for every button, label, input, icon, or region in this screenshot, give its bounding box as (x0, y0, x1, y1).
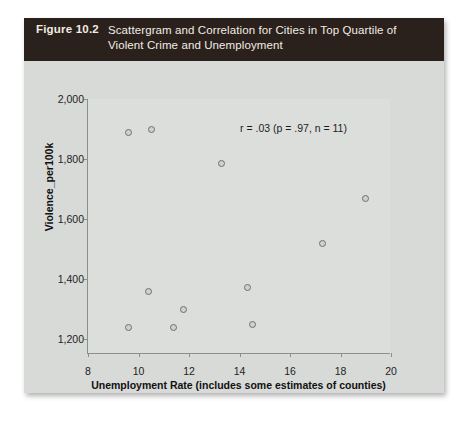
figure-caption-line-2: Violent Crime and Unemployment (108, 38, 434, 53)
figure-container: Figure 10.2 Scattergram and Correlation … (24, 18, 444, 393)
scatter-point (125, 129, 132, 136)
figure-number: Figure 10.2 (36, 23, 99, 35)
scatter-point (244, 284, 251, 291)
scatter-point (319, 240, 326, 247)
scatter-point (362, 195, 369, 202)
x-tick-label: 14 (223, 361, 257, 377)
x-tick-label: 20 (374, 361, 408, 377)
x-axis-label: Unemployment Rate (includes some estimat… (87, 379, 390, 391)
x-tick-mark (290, 353, 291, 357)
scatter-plot-area: 1,2001,4001,6001,8002,000 8101214161820 … (87, 99, 390, 354)
y-axis-label: Violence_per100k (43, 92, 55, 282)
correlation-annotation: r = .03 (p = .97, n = 11) (240, 122, 347, 134)
x-tick-mark (240, 353, 241, 357)
y-tick-mark (84, 99, 88, 100)
scatter-point (145, 288, 152, 295)
scatter-point (148, 126, 155, 133)
x-tick-label: 12 (172, 361, 206, 377)
y-tick-mark (84, 159, 88, 160)
x-tick-mark (189, 353, 190, 357)
figure-caption-line-1: Scattergram and Correlation for Cities i… (108, 23, 434, 38)
x-tick-mark (391, 353, 392, 357)
plot-panel: 1,2001,4001,6001,8002,000 8101214161820 … (24, 61, 444, 393)
scatter-point (170, 324, 177, 331)
figure-header: Figure 10.2 Scattergram and Correlation … (24, 18, 444, 61)
scatter-point (180, 306, 187, 313)
x-tick-label: 18 (324, 361, 358, 377)
x-tick-label: 16 (273, 361, 307, 377)
scatter-point (249, 321, 256, 328)
x-tick-mark (139, 353, 140, 357)
figure-caption: Scattergram and Correlation for Cities i… (108, 23, 434, 52)
y-tick-mark (84, 219, 88, 220)
y-tick-mark (84, 339, 88, 340)
scatter-point (125, 324, 132, 331)
x-tick-label: 10 (122, 361, 156, 377)
y-tick-mark (84, 279, 88, 280)
scatter-point (218, 160, 225, 167)
x-tick-label: 8 (71, 361, 105, 377)
y-tick-label: 1,200 (24, 333, 84, 345)
x-tick-mark (341, 353, 342, 357)
x-tick-mark (88, 353, 89, 357)
